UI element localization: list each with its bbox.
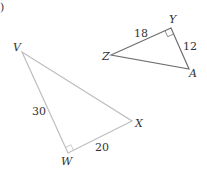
triangle-zya-outline (111, 28, 189, 69)
side-label-zy: 18 (134, 27, 148, 40)
problem-label: ) (0, 1, 4, 14)
vertex-label-x: X (134, 117, 144, 130)
side-label-vw: 30 (32, 105, 46, 118)
vertex-label-a: A (188, 67, 197, 80)
triangle-vwx: V W X 30 20 (13, 41, 144, 168)
triangle-zya: Z Y A 18 12 (101, 13, 197, 80)
vertex-label-y: Y (169, 13, 178, 26)
side-label-ya: 12 (183, 40, 197, 53)
figure: ) Z Y A 18 12 V W X 30 20 (0, 0, 207, 169)
vertex-label-z: Z (101, 50, 110, 63)
side-label-wx: 20 (95, 141, 109, 154)
triangle-vwx-outline (22, 52, 132, 153)
vertex-label-v: V (13, 41, 22, 54)
vertex-label-w: W (61, 155, 74, 168)
